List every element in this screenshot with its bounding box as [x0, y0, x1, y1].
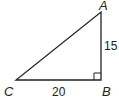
vertex-label-c: C — [4, 84, 14, 99]
right-angle-marker — [94, 73, 101, 80]
triangle-diagram: A B C 15 20 — [0, 0, 119, 99]
side-label-cb: 20 — [52, 85, 66, 99]
side-label-ab: 15 — [104, 39, 118, 53]
triangle-abc — [16, 12, 101, 80]
vertex-label-a: A — [98, 0, 108, 13]
vertex-label-b: B — [102, 84, 111, 99]
